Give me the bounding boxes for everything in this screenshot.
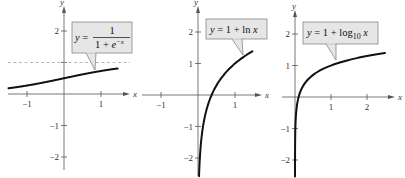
- callout-pointer: [326, 44, 336, 60]
- graph-panel-2: xy−11−2−112y = 1 + ln x: [142, 0, 269, 176]
- y-axis-arrow-icon: [62, 6, 66, 13]
- figure-three-graphs: xy−11−2−12y =11 + e−xxy−11−2−112y = 1 + …: [0, 0, 405, 178]
- equation-label: y = 1 + ln x: [209, 24, 258, 35]
- equation-numerator: 1: [109, 25, 114, 36]
- y-axis-arrow-icon: [293, 10, 297, 17]
- callout-pointer: [232, 39, 243, 55]
- y-axis-label: y: [59, 0, 64, 7]
- y-tick-label: −1: [280, 124, 290, 134]
- x-axis-arrow-icon: [123, 92, 130, 96]
- y-tick-label: −1: [183, 122, 193, 132]
- x-tick-label: 2: [365, 102, 370, 112]
- x-axis-arrow-icon: [388, 95, 395, 99]
- x-tick-label: 1: [99, 99, 104, 109]
- y-tick-label: 1: [189, 59, 194, 69]
- graphs-canvas: xy−11−2−12y =11 + e−xxy−11−2−112y = 1 + …: [0, 0, 405, 178]
- x-tick-label: −1: [22, 99, 32, 109]
- x-tick-label: 1: [233, 100, 238, 110]
- y-tick-label: 2: [286, 29, 291, 39]
- y-tick-label: 1: [286, 61, 291, 71]
- x-axis-arrow-icon: [255, 93, 262, 97]
- graph-panel-1: xy−11−2−12y =11 + e−x: [8, 0, 137, 170]
- y-axis-label: y: [193, 0, 198, 7]
- y-tick-label: −2: [183, 153, 193, 163]
- y-tick-label: −2: [280, 155, 290, 165]
- y-tick-label: −1: [49, 121, 59, 131]
- y-tick-label: 2: [55, 26, 60, 36]
- y-axis-label: y: [291, 1, 296, 11]
- function-curve: [9, 68, 118, 88]
- x-tick-label: −1: [156, 100, 166, 110]
- function-curve: [295, 53, 385, 177]
- y-axis-arrow-icon: [196, 6, 200, 13]
- x-axis-label: x: [264, 90, 269, 100]
- x-tick-label: 1: [329, 102, 334, 112]
- function-curve: [199, 51, 252, 176]
- x-axis-label: x: [132, 89, 137, 99]
- equation-lhs: y =: [74, 32, 88, 43]
- graph-panel-3: xy12−2−112y = 1 + log10 x: [280, 1, 402, 176]
- callout-pointer: [86, 53, 96, 70]
- y-tick-label: 2: [189, 27, 194, 37]
- function-label-callout: y = 1 + log10 x: [303, 22, 378, 60]
- function-label-callout: y = 1 + ln x: [206, 19, 267, 55]
- x-axis-label: x: [397, 92, 402, 102]
- y-tick-label: −2: [49, 152, 59, 162]
